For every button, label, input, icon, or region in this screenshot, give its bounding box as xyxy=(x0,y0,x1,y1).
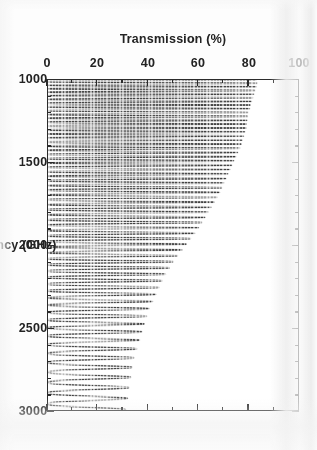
transmission-tick xyxy=(197,404,198,411)
frequency-tick xyxy=(47,112,51,113)
frequency-tick xyxy=(292,162,299,163)
transmission-curve xyxy=(48,80,298,410)
frequency-tick xyxy=(295,129,299,130)
transmission-tick xyxy=(197,79,198,86)
frequency-tick xyxy=(295,378,299,379)
transmission-ticklabel: 40 xyxy=(140,56,154,70)
frequency-tick xyxy=(292,411,299,412)
transmission-tick xyxy=(171,407,172,411)
transmission-ticklabel: 0 xyxy=(43,56,50,70)
transmission-tick xyxy=(272,407,273,411)
frequency-tick xyxy=(47,129,51,130)
frequency-ticklabel: 1500 xyxy=(18,155,47,169)
scanned-page: 10001500200025003000 020406080100 Freque… xyxy=(0,0,317,450)
transmission-tick xyxy=(71,79,72,83)
frequency-tick xyxy=(47,96,51,97)
frequency-tick xyxy=(47,311,51,312)
transmission-tick xyxy=(96,79,97,86)
frequency-tick xyxy=(47,162,54,163)
frequency-tick xyxy=(295,262,299,263)
rotated-figure-wrapper: 10001500200025003000 020406080100 Freque… xyxy=(9,25,309,425)
frequency-tick xyxy=(295,112,299,113)
transmission-tick xyxy=(222,407,223,411)
transmission-tick xyxy=(247,404,248,411)
frequency-tick xyxy=(47,378,51,379)
frequency-tick xyxy=(295,145,299,146)
frequency-tick xyxy=(47,361,51,362)
frequency-tick xyxy=(47,262,51,263)
plot-area xyxy=(47,79,299,411)
transmission-tick xyxy=(121,79,122,83)
frequency-tick xyxy=(47,328,54,329)
transmission-tick xyxy=(247,79,248,86)
transmission-spectrum-figure: 10001500200025003000 020406080100 Freque… xyxy=(9,25,309,425)
frequency-tick xyxy=(295,345,299,346)
y-axis-title: Transmission (%) xyxy=(119,32,226,46)
frequency-tick xyxy=(295,361,299,362)
transmission-tick xyxy=(171,79,172,83)
transmission-ticklabel: 60 xyxy=(191,56,205,70)
frequency-tick xyxy=(292,245,299,246)
frequency-tick xyxy=(47,278,51,279)
frequency-ticklabel: 2500 xyxy=(18,321,47,335)
transmission-tick xyxy=(96,404,97,411)
frequency-tick xyxy=(47,212,51,213)
frequency-tick xyxy=(295,96,299,97)
transmission-tick xyxy=(146,79,147,86)
frequency-tick xyxy=(292,328,299,329)
frequency-tick xyxy=(47,411,54,412)
transmission-ticklabel: 80 xyxy=(241,56,255,70)
frequency-tick xyxy=(47,394,51,395)
transmission-tick xyxy=(121,407,122,411)
frequency-tick xyxy=(47,79,54,80)
frequency-ticklabel: 1000 xyxy=(18,72,47,86)
frequency-tick xyxy=(295,195,299,196)
x-axis-title: Frequency (GHz) xyxy=(0,238,56,252)
frequency-tick xyxy=(295,179,299,180)
transmission-ticklabel: 20 xyxy=(90,56,104,70)
transmission-tick xyxy=(222,79,223,83)
frequency-tick xyxy=(47,295,51,296)
frequency-tick xyxy=(295,311,299,312)
frequency-tick xyxy=(295,295,299,296)
transmission-tick xyxy=(272,79,273,83)
frequency-tick xyxy=(47,179,51,180)
frequency-tick xyxy=(47,345,51,346)
transmission-tick xyxy=(297,79,298,86)
transmission-ticklabel: 100 xyxy=(288,56,309,70)
frequency-tick xyxy=(47,145,51,146)
frequency-tick xyxy=(47,228,51,229)
frequency-tick xyxy=(295,278,299,279)
frequency-tick xyxy=(295,212,299,213)
scan-noise-top xyxy=(0,0,317,10)
frequency-ticklabel: 3000 xyxy=(18,404,47,418)
transmission-tick xyxy=(297,404,298,411)
frequency-tick xyxy=(295,394,299,395)
transmission-tick xyxy=(71,407,72,411)
frequency-tick xyxy=(47,195,51,196)
transmission-tick xyxy=(146,404,147,411)
frequency-tick xyxy=(295,228,299,229)
